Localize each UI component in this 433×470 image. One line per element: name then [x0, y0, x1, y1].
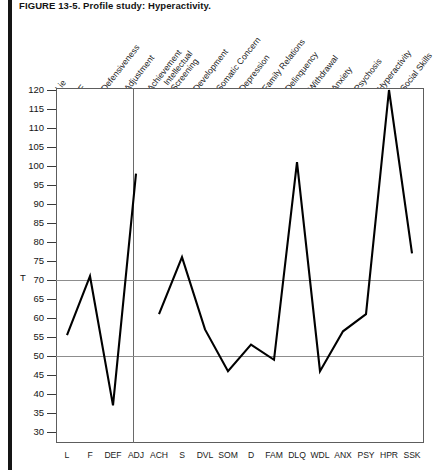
x-abbr-fam: FAM	[265, 450, 283, 460]
x-abbr-hpr: HPR	[380, 450, 398, 460]
x-abbr-anx: ANX	[334, 450, 352, 460]
series-segment-validity-scales	[67, 174, 136, 406]
x-abbr-adj: ADJ	[128, 450, 144, 460]
x-abbr-l: L	[65, 450, 70, 460]
x-abbr-dlq: DLQ	[288, 450, 306, 460]
profile-line-chart	[0, 0, 433, 470]
series-segment-clinical-scales	[159, 90, 412, 371]
x-abbr-def: DEF	[104, 450, 121, 460]
x-abbr-psy: PSY	[357, 450, 374, 460]
x-abbr-f: F	[87, 450, 92, 460]
x-abbr-som: SOM	[218, 450, 238, 460]
x-abbr-d: D	[248, 450, 254, 460]
figure-root: FIGURE 13-5. Profile study: Hyperactivit…	[0, 0, 433, 470]
x-abbr-ach: ACH	[150, 450, 168, 460]
x-abbr-s: S	[179, 450, 185, 460]
x-abbr-dvl: DVL	[197, 450, 214, 460]
x-abbr-wdl: WDL	[310, 450, 329, 460]
x-abbr-ssk: SSK	[403, 450, 420, 460]
